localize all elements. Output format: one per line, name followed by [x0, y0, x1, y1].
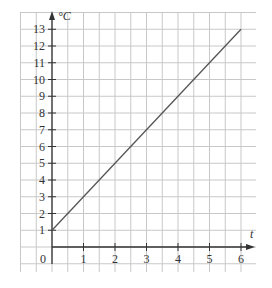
svg-text:3: 3 [144, 252, 150, 266]
svg-text:12: 12 [33, 39, 45, 53]
svg-text:6: 6 [238, 252, 244, 266]
svg-text:1: 1 [39, 223, 45, 237]
origin-label: 0 [40, 252, 46, 266]
svg-text:1: 1 [81, 252, 87, 266]
svg-text:11: 11 [33, 56, 45, 70]
svg-text:5: 5 [39, 156, 45, 170]
svg-text:13: 13 [33, 22, 45, 36]
y-axis-label: °C [58, 9, 72, 23]
svg-text:3: 3 [39, 190, 45, 204]
x-axis-label: t [250, 227, 254, 241]
svg-text:2: 2 [112, 252, 118, 266]
axes [49, 11, 255, 264]
svg-text:6: 6 [39, 140, 45, 154]
line-chart: 12345678910111213123456 °C t 0 [0, 0, 272, 288]
svg-text:9: 9 [39, 89, 45, 103]
svg-text:4: 4 [175, 252, 181, 266]
svg-text:7: 7 [39, 123, 45, 137]
svg-text:5: 5 [207, 252, 213, 266]
svg-text:8: 8 [39, 106, 45, 120]
svg-text:2: 2 [39, 207, 45, 221]
svg-text:4: 4 [39, 173, 45, 187]
svg-text:10: 10 [33, 73, 45, 87]
